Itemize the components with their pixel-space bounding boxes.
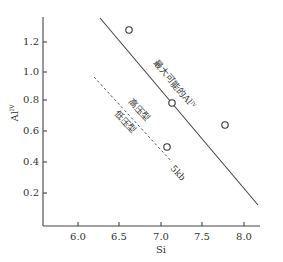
y-tick-label: 1.0 [23, 66, 39, 77]
x-tick-label: 8.0 [236, 231, 252, 242]
y-tick-label: 0.6 [23, 125, 39, 136]
data-point [164, 144, 170, 150]
x-tick-label: 7.5 [194, 231, 210, 242]
data-point [222, 122, 228, 128]
data-point [169, 100, 175, 106]
y-tick-label: 0.4 [23, 156, 39, 167]
y-tick-label: 0.8 [23, 94, 39, 105]
x-tick-labels: 6.0 6.5 7.0 7.5 8.0 [70, 231, 252, 242]
svg-text:AlIV: AlIV [8, 104, 20, 123]
x-tick-label: 6.0 [70, 231, 86, 242]
x-tick-label: 7.0 [153, 231, 169, 242]
data-point [126, 27, 132, 33]
y-tick-label: 1.2 [23, 36, 39, 47]
y-tick-labels: 1.2 1.0 0.8 0.6 0.4 0.2 [23, 36, 39, 198]
y-tick-label: 0.2 [23, 187, 39, 198]
svg-text:5kb: 5kb [169, 163, 188, 182]
x-tick-label: 6.5 [111, 231, 127, 242]
y-axis-title: AlIV [8, 104, 20, 123]
5kb-label: 5kb [169, 163, 188, 182]
axes [43, 17, 260, 226]
chart: 1.2 1.0 0.8 0.6 0.4 0.2 6.0 6.5 7.0 7.5 … [0, 0, 283, 262]
x-axis-title: Si [156, 244, 166, 255]
